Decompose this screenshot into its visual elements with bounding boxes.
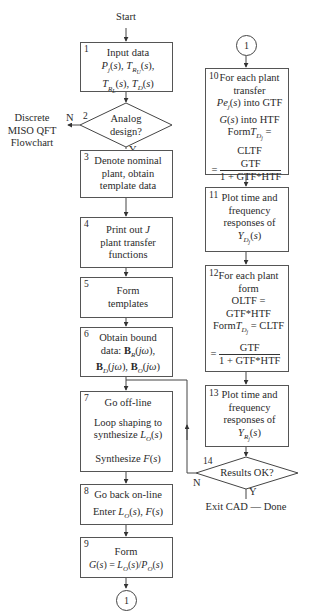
step-9-form-controller[interactable]: 9 Form G(s) = LO(s)/PO(s) [80, 537, 173, 578]
discrete-miso-qft-flowchart-link[interactable]: Discrete MISO QFT Flowchart [0, 112, 64, 150]
step-text: Go off-line Loop shaping to synthesize L… [87, 397, 169, 465]
branch-no-label: N [193, 477, 201, 490]
step-text: Plot time and frequency responses of YDj… [214, 192, 285, 248]
step-12-form-oltf-cltf[interactable]: 12 For each plant form OLTF = GTF*HTF Fo… [205, 265, 289, 372]
flowchart-canvas: Start 1 Input data Pj(s), TRU(s), TRL(s)… [0, 0, 315, 615]
step-5-form-templates[interactable]: 5 Form templates [80, 277, 173, 318]
step-3-denote-nominal-plant[interactable]: 3 Denote nominal plant, obtain template … [80, 150, 173, 198]
step-text: Input data Pj(s), TRU(s), TRL(s), TD(s) [87, 47, 169, 97]
step-text: For each plant transfer Pej(s) into GTF … [214, 72, 285, 183]
step-number: 14 [203, 455, 213, 468]
step-1-input-data[interactable]: 1 Input data Pj(s), TRU(s), TRL(s), TD(s… [80, 42, 173, 92]
off-page-connector-1-entry[interactable]: 1 [236, 35, 257, 56]
step-text: Go back on-line Enter LO(s), F(s) [87, 489, 169, 522]
step-text: For each plant form OLTF = GTF*HTF FormT… [212, 270, 285, 367]
step-number: 2 [83, 110, 88, 123]
step-11-plot-responses-yd[interactable]: 11 Plot time and frequency responses of … [205, 187, 289, 252]
decision-2-analog-design[interactable]: Analog design? [100, 113, 152, 138]
step-7-go-off-line[interactable]: 7 Go off-line Loop shaping to synthesize… [80, 391, 173, 472]
branch-yes-label: Y [249, 486, 257, 499]
step-text: Form G(s) = LO(s)/PO(s) [83, 546, 169, 575]
off-page-connector-1[interactable]: 1 [116, 590, 137, 611]
step-13-plot-responses-yr[interactable]: 13 Plot time and frequency responses of … [205, 385, 289, 447]
branch-no-label: N [66, 112, 74, 125]
step-text: Obtain bound data: BR(jω), BD(jω), BO(jω… [87, 332, 169, 378]
exit-cad-done: Exit CAD — Done [196, 501, 296, 514]
step-text: Print out J plant transfer functions [87, 224, 169, 262]
step-4-print-plant-transfer-functions[interactable]: 4 Print out J plant transfer functions [80, 217, 173, 268]
step-8-go-back-on-line[interactable]: 8 Go back on-line Enter LO(s), F(s) [80, 484, 173, 525]
step-text: Denote nominal plant, obtain template da… [87, 155, 169, 193]
step-text: Plot time and frequency responses of YRj… [214, 389, 285, 445]
step-6-obtain-bound-data[interactable]: 6 Obtain bound data: BR(jω), BD(jω), BO(… [80, 327, 173, 377]
step-10-plant-transfer-loop[interactable]: 10 For each plant transfer Pej(s) into G… [205, 68, 289, 175]
start-label: Start [106, 11, 146, 24]
step-text: Form templates [87, 285, 169, 310]
decision-14-results-ok[interactable]: Results OK? [213, 467, 281, 480]
